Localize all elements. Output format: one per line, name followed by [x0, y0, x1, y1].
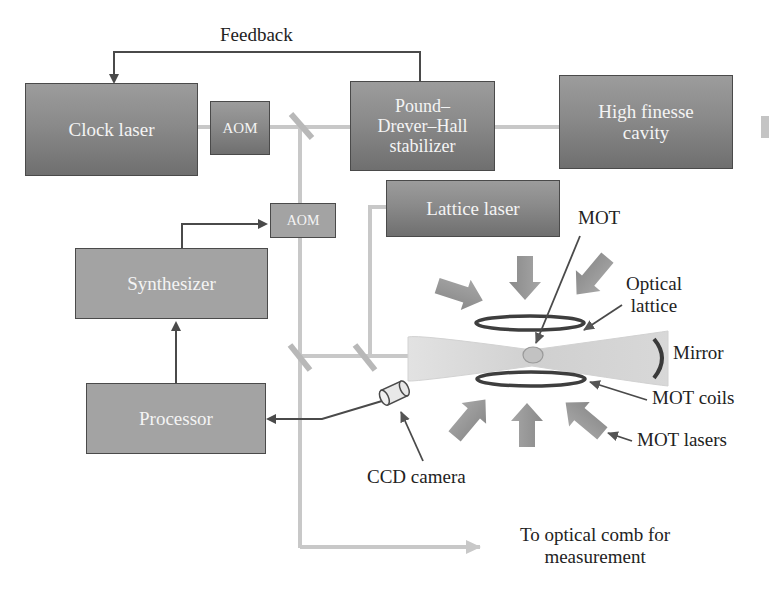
processor-box: Processor	[86, 383, 266, 454]
optical-lattice-line1: Optical	[626, 273, 682, 295]
clock-laser-box: Clock laser	[25, 83, 198, 176]
mot-arrow-lower-right	[555, 390, 612, 445]
mot-lasers-label: MOT lasers	[637, 429, 727, 451]
beam-lattice-down	[370, 207, 387, 356]
feedback-line	[114, 52, 420, 84]
mot-arrow-upper-left	[432, 270, 488, 315]
optical-lattice-line2: lattice	[626, 295, 682, 317]
aom-top-box: AOM	[210, 101, 270, 155]
processor-label: Processor	[139, 408, 213, 429]
cavity-output-stub	[761, 116, 769, 138]
mot-coils-label: MOT coils	[652, 387, 735, 409]
ccd-camera-icon	[377, 379, 411, 406]
synth-to-aom-line	[182, 224, 266, 248]
pdh-label-line1: Pound–	[395, 96, 450, 116]
output-label-line2: measurement	[520, 546, 670, 568]
aom-mid-label: AOM	[287, 213, 320, 229]
pdh-stabilizer-box: Pound– Drever–Hall stabilizer	[350, 81, 495, 171]
mot-lasers-pointer	[608, 433, 632, 441]
aom-mid-box: AOM	[270, 203, 336, 238]
cavity-label-line2: cavity	[623, 122, 669, 143]
feedback-label: Feedback	[220, 24, 293, 46]
pdh-label-line3: stabilizer	[390, 136, 456, 156]
cavity-label-line1: High finesse	[598, 101, 694, 122]
mot-arrow-bottom	[511, 403, 543, 447]
pdh-label-line2: Drever–Hall	[378, 116, 468, 136]
mot-coil-bottom	[477, 372, 585, 386]
clock-laser-label: Clock laser	[68, 119, 154, 140]
lattice-laser-label: Lattice laser	[426, 198, 519, 219]
synthesizer-box: Synthesizer	[75, 248, 268, 319]
optical-lattice-pointer	[584, 305, 622, 330]
optical-lattice-label: Optical lattice	[626, 273, 682, 317]
ccd-camera-pointer	[401, 412, 423, 461]
mirror-label: Mirror	[673, 342, 724, 364]
lattice-laser-box: Lattice laser	[386, 180, 560, 237]
ccd-camera-label: CCD camera	[367, 466, 466, 488]
synthesizer-label: Synthesizer	[127, 273, 216, 294]
mot-arrow-lower-left	[442, 389, 497, 446]
mot-atom-cloud	[523, 347, 543, 363]
mot-label: MOT	[578, 207, 620, 229]
optical-comb-output-label: To optical comb for measurement	[520, 524, 670, 568]
camera-to-processor-line	[268, 401, 382, 419]
output-label-line1: To optical comb for	[520, 524, 670, 546]
mot-arrow-top	[509, 256, 541, 300]
aom-top-label: AOM	[222, 120, 257, 137]
mot-coils-pointer	[590, 382, 647, 400]
high-finesse-cavity-box: High finesse cavity	[559, 75, 733, 169]
mot-coil-top	[476, 316, 584, 330]
